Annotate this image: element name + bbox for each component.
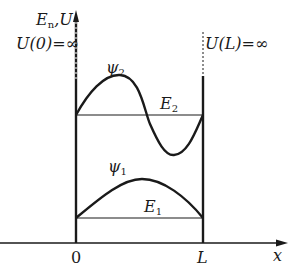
origin-label: 0 xyxy=(71,250,81,266)
e2-main: E xyxy=(160,94,172,113)
y-axis-arrow-icon xyxy=(73,10,79,22)
x-axis-label: x xyxy=(273,248,282,264)
psi1-label: ψ1 xyxy=(108,159,127,177)
psi2-sub: 2 xyxy=(119,67,125,78)
wavefunction-psi1 xyxy=(76,179,203,218)
right-wall-text: U(L)= xyxy=(205,34,255,53)
left-wall-label: U(0)=∞ xyxy=(16,36,79,52)
psi1-main: ψ xyxy=(108,157,121,176)
L-label: L xyxy=(197,250,208,266)
y-label-main: E xyxy=(36,10,48,29)
e2-sub: 2 xyxy=(172,103,178,114)
psi2-label: ψ2 xyxy=(106,60,125,78)
e1-main: E xyxy=(144,197,156,216)
psi1-sub: 1 xyxy=(121,166,127,177)
e2-label: E2 xyxy=(160,96,178,114)
y-axis-label: En,U xyxy=(36,12,73,30)
psi2-main: ψ xyxy=(106,58,119,77)
left-wall-text: U(0)= xyxy=(16,34,66,53)
right-infinity: ∞ xyxy=(255,34,268,53)
e1-sub: 1 xyxy=(156,206,162,217)
left-infinity: ∞ xyxy=(66,34,79,53)
y-label-rest: ,U xyxy=(54,10,73,29)
e1-label: E1 xyxy=(144,199,162,217)
right-wall-label: U(L)=∞ xyxy=(205,36,268,52)
